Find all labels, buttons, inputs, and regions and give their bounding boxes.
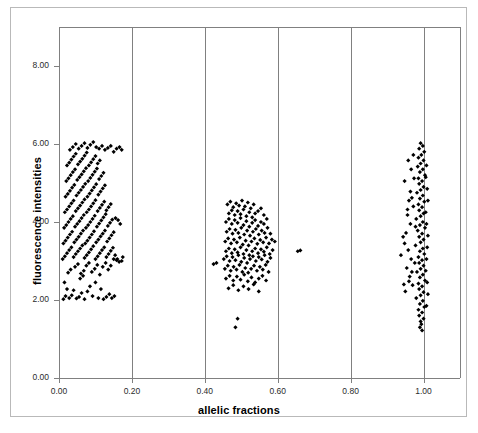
data-point — [421, 237, 425, 241]
data-point — [408, 222, 412, 226]
data-point — [77, 147, 81, 151]
data-point — [89, 204, 93, 208]
data-point — [112, 230, 116, 234]
x-tick-label: 0.60 — [258, 386, 298, 396]
data-point — [106, 267, 110, 271]
data-point — [406, 248, 410, 252]
data-point — [420, 310, 424, 314]
data-point — [417, 208, 421, 212]
data-point — [417, 261, 421, 265]
data-point — [247, 210, 251, 214]
data-point — [226, 236, 230, 240]
data-point — [88, 284, 92, 288]
data-point — [101, 186, 105, 190]
data-point — [418, 197, 422, 201]
data-point — [69, 158, 73, 162]
data-point — [233, 213, 237, 217]
data-point — [92, 229, 96, 233]
data-point — [244, 219, 248, 223]
data-point — [121, 255, 125, 259]
data-point — [109, 249, 113, 253]
data-point — [236, 209, 240, 213]
data-point — [96, 161, 100, 165]
data-point — [101, 297, 105, 301]
data-point — [98, 251, 102, 255]
data-point — [263, 253, 267, 257]
plot-area-wrapper: 0.000.200.400.600.801.00 0.002.004.006.0… — [0, 0, 478, 433]
data-point — [426, 292, 430, 296]
data-point — [419, 267, 423, 271]
data-point — [259, 247, 263, 251]
data-point — [418, 275, 422, 279]
data-point — [246, 243, 250, 247]
data-point — [88, 191, 92, 195]
data-point — [420, 232, 424, 236]
data-point — [118, 222, 122, 226]
data-point — [241, 252, 245, 256]
data-point — [113, 253, 117, 257]
data-point — [82, 154, 86, 158]
data-point — [265, 217, 269, 221]
data-point — [95, 263, 99, 267]
data-point — [104, 208, 108, 212]
data-point — [66, 236, 70, 240]
data-point — [249, 267, 253, 271]
data-point — [82, 197, 86, 201]
data-point — [82, 169, 86, 173]
data-point — [259, 206, 263, 210]
data-point — [106, 252, 110, 256]
data-point — [227, 217, 231, 221]
data-point — [68, 189, 72, 193]
data-point — [233, 258, 237, 262]
data-point — [407, 198, 411, 202]
data-point — [249, 275, 253, 279]
data-point — [69, 173, 73, 177]
data-point — [252, 236, 256, 240]
data-point — [409, 257, 413, 261]
data-point — [229, 241, 233, 245]
data-point — [93, 154, 97, 158]
data-point — [238, 278, 242, 282]
data-point — [96, 209, 100, 213]
data-point — [246, 279, 250, 283]
data-point — [258, 238, 262, 242]
data-point — [257, 276, 261, 280]
data-point — [78, 276, 82, 280]
axis-lines-group — [59, 27, 460, 378]
data-point — [71, 145, 75, 149]
data-point — [421, 264, 425, 268]
data-point — [234, 267, 238, 271]
data-point — [90, 294, 94, 298]
data-point — [230, 251, 234, 255]
data-point — [105, 239, 109, 243]
data-point — [262, 213, 266, 217]
data-point — [405, 266, 409, 270]
x-tick-label: 1.00 — [404, 386, 444, 396]
data-point — [238, 216, 242, 220]
data-point — [104, 255, 108, 259]
data-point — [81, 228, 85, 232]
data-point — [85, 150, 89, 154]
data-point — [418, 302, 422, 306]
data-point — [98, 273, 102, 277]
data-point — [419, 240, 423, 244]
data-point — [401, 235, 405, 239]
data-point — [228, 200, 232, 204]
data-point — [232, 265, 236, 269]
data-point — [417, 287, 421, 291]
data-point — [248, 234, 252, 238]
data-point — [425, 245, 429, 249]
data-point — [421, 317, 425, 321]
data-point — [416, 165, 420, 169]
data-point — [99, 174, 103, 178]
data-point — [94, 182, 98, 186]
data-point — [97, 177, 101, 181]
data-point — [410, 196, 414, 200]
data-point — [242, 232, 246, 236]
data-point — [422, 150, 426, 154]
scatter-plot-figure: 0.000.200.400.600.801.00 0.002.004.006.0… — [0, 0, 478, 433]
data-point — [96, 193, 100, 197]
data-point — [405, 207, 409, 211]
data-point — [244, 248, 248, 252]
data-point — [402, 241, 406, 245]
